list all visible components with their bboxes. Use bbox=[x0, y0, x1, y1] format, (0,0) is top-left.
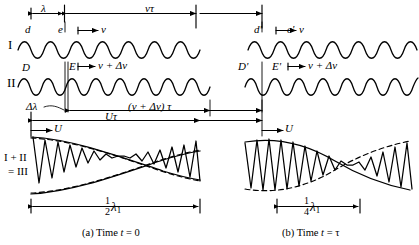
figure-linework bbox=[0, 0, 419, 245]
wave2-velocity-label: v + Δv bbox=[98, 60, 127, 71]
beat-span-fraction-a: 1 2 bbox=[104, 196, 111, 218]
panel-a-caption-var: t bbox=[121, 227, 124, 238]
panel-a-caption: (a) Time t = 0 bbox=[82, 228, 140, 239]
beat-span-subscript-b: 1 bbox=[316, 205, 320, 215]
lambda-label: λ bbox=[41, 3, 46, 14]
delta-lambda-label: Δλ bbox=[26, 101, 37, 112]
wave2-point-D-prime: D' bbox=[238, 61, 248, 72]
panel-b-caption-word: Time bbox=[297, 227, 319, 238]
wave-beats-figure: I II I + II = III λ vτ d e v D E v + Δv … bbox=[0, 0, 419, 245]
panel-a-caption-prefix: (a) bbox=[82, 227, 94, 238]
beat-span-denominator-b: 4 bbox=[303, 207, 310, 217]
panel-b-caption-value: = τ bbox=[327, 227, 340, 238]
row-label-sum-line1: I + II bbox=[4, 152, 27, 163]
wave1-point-e: e bbox=[58, 24, 63, 35]
wave1-point-d: d bbox=[25, 24, 31, 35]
wave1-velocity-label: v bbox=[101, 24, 106, 35]
beat-span-denominator-a: 2 bbox=[104, 207, 111, 217]
panel-b-caption-var: t bbox=[321, 227, 324, 238]
row-label-sum-line2: = III bbox=[8, 166, 28, 177]
panel-a-caption-value: = 0 bbox=[126, 227, 140, 238]
group-velocity-label-a: U bbox=[54, 123, 62, 134]
beat-span-fraction-b: 1 4 bbox=[303, 196, 310, 218]
wave2-point-D: D bbox=[22, 62, 30, 73]
beat-span-subscript-a: 1 bbox=[117, 205, 121, 215]
row-label-two: II bbox=[7, 76, 16, 89]
group-distance-label: Uτ bbox=[105, 111, 117, 122]
wave2-point-E: E bbox=[69, 61, 76, 72]
beat-span-label-b: 1 4 λ1 bbox=[303, 196, 320, 218]
v-tau-label: vτ bbox=[145, 3, 154, 14]
beat-span-label-a: 1 2 λ1 bbox=[104, 196, 121, 218]
wave1-point-e-prime: e' bbox=[287, 24, 294, 35]
panel-a-caption-word: Time bbox=[96, 227, 118, 238]
group-velocity-label-b: U bbox=[285, 123, 293, 134]
wave1-velocity-label-b: v bbox=[299, 24, 304, 35]
panel-b-caption: (b) Time t = τ bbox=[282, 228, 339, 239]
row-label-one: I bbox=[8, 38, 12, 51]
wave1-point-d-prime: d' bbox=[254, 24, 262, 35]
panel-b-caption-prefix: (b) bbox=[282, 227, 294, 238]
wave2-distance-label: (v + Δv) τ bbox=[128, 101, 171, 112]
wave2-point-E-prime: E' bbox=[272, 61, 281, 72]
wave2-velocity-label-b: v + Δv bbox=[308, 60, 337, 71]
